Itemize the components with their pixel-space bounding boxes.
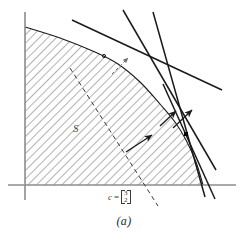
cost-vector-label: c = 3 2 — [108, 190, 131, 204]
cost-vector-name: c — [108, 192, 112, 202]
optimal-solution-marker — [184, 132, 188, 136]
equals-sign: = — [114, 192, 119, 202]
cost-component-2: 2 — [124, 197, 128, 204]
vector-bracket: 3 2 — [121, 190, 131, 204]
optimization-diagram — [0, 0, 248, 246]
feasible-region-S — [25, 27, 203, 185]
figure-caption: (a) — [0, 214, 248, 229]
region-label-S: S — [73, 122, 79, 134]
cost-component-1: 3 — [124, 190, 128, 197]
figure-container: S c = 3 2 (a) — [0, 0, 248, 246]
